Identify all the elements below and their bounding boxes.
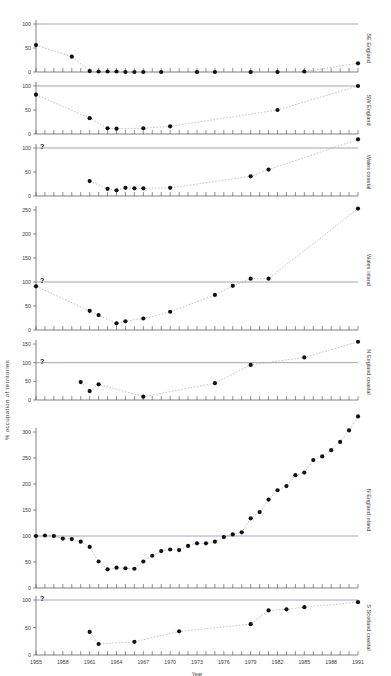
data-point	[302, 355, 306, 359]
data-point	[88, 389, 92, 393]
data-point	[141, 70, 145, 74]
data-point	[266, 608, 270, 612]
y-tick-label: 100	[22, 83, 31, 89]
data-point	[275, 488, 279, 492]
data-point	[159, 549, 163, 553]
y-tick-label: 100	[22, 597, 31, 603]
data-point	[213, 540, 217, 544]
data-point	[97, 69, 101, 73]
uncertainty-marker: ?	[40, 358, 44, 365]
data-point	[88, 545, 92, 549]
series-connector	[36, 45, 358, 72]
data-point	[141, 186, 145, 190]
data-point	[114, 188, 118, 192]
y-tick-label: 50	[25, 559, 31, 565]
data-point	[88, 69, 92, 73]
data-point	[88, 179, 92, 183]
data-point	[97, 642, 101, 646]
data-point	[329, 448, 333, 452]
series-connector	[36, 209, 358, 324]
data-point	[356, 414, 360, 418]
y-tick-label: 300	[22, 429, 31, 435]
series-connector	[90, 602, 358, 644]
panel-se-england: 050100SE England	[22, 20, 372, 75]
data-point	[97, 313, 101, 317]
panel-s-scotland-coastal: 050100?S Scotland coastal	[22, 595, 372, 658]
data-point	[141, 559, 145, 563]
series-connector	[90, 139, 358, 190]
data-point	[356, 137, 360, 141]
data-point	[293, 473, 297, 477]
y-tick-label: 0	[28, 652, 31, 658]
data-point	[356, 340, 360, 344]
data-point	[266, 498, 270, 502]
panel-label: SW England	[366, 94, 372, 125]
figure-multi-panel-occupation: 050100SE England050100SW England050100?W…	[0, 0, 391, 676]
data-point	[231, 532, 235, 536]
data-point	[311, 458, 315, 462]
y-tick-label: 150	[22, 255, 31, 261]
data-point	[347, 428, 351, 432]
x-tick-label: 1988	[325, 659, 337, 665]
data-point	[338, 440, 342, 444]
x-tick-label: 1973	[191, 659, 203, 665]
data-point	[123, 319, 127, 323]
data-point	[168, 186, 172, 190]
data-point	[186, 544, 190, 548]
data-point	[132, 567, 136, 571]
x-axis-title: Year	[192, 671, 203, 676]
chart-svg: 050100SE England050100SW England050100?W…	[0, 0, 391, 676]
data-point	[284, 484, 288, 488]
y-tick-label: 100	[22, 360, 31, 366]
x-tick-label: 1958	[57, 659, 69, 665]
data-point	[88, 309, 92, 313]
x-tick-label: 1964	[111, 659, 123, 665]
data-point	[70, 537, 74, 541]
data-point	[213, 381, 217, 385]
data-point	[249, 622, 253, 626]
data-point	[123, 186, 127, 190]
series-connector	[36, 86, 358, 129]
y-tick-label: 0	[28, 327, 31, 333]
data-point	[302, 605, 306, 609]
panel-label: Wales coastal	[366, 155, 372, 190]
data-point	[70, 55, 74, 59]
data-point	[168, 547, 172, 551]
y-tick-label: 0	[28, 69, 31, 75]
x-tick-label: 1991	[352, 659, 364, 665]
data-point	[258, 510, 262, 514]
panel-label: S Scotland coastal	[366, 604, 372, 650]
y-tick-label: 50	[25, 169, 31, 175]
data-point	[141, 316, 145, 320]
data-point	[302, 470, 306, 474]
data-point	[249, 363, 253, 367]
data-point	[266, 168, 270, 172]
data-point	[356, 61, 360, 65]
data-point	[249, 516, 253, 520]
x-axis-labels: 1955195819611964196719701973197619791982…	[30, 659, 364, 676]
panel-label: SE England	[366, 33, 372, 63]
data-point	[105, 69, 109, 73]
data-point	[302, 69, 306, 73]
data-point	[284, 607, 288, 611]
data-point	[97, 559, 101, 563]
y-tick-label: 50	[25, 45, 31, 51]
data-point	[105, 187, 109, 191]
y-tick-label: 250	[22, 455, 31, 461]
x-tick-label: 1955	[30, 659, 42, 665]
panel-wales-coastal: 050100?Wales coastal	[22, 137, 372, 199]
y-tick-label: 50	[25, 378, 31, 384]
y-tick-label: 0	[28, 131, 31, 137]
data-point	[275, 70, 279, 74]
data-point	[79, 540, 83, 544]
data-point	[150, 554, 154, 558]
data-point	[34, 534, 38, 538]
data-point	[249, 70, 253, 74]
data-point	[231, 284, 235, 288]
data-point	[114, 69, 118, 73]
data-point	[123, 70, 127, 74]
data-point	[105, 126, 109, 130]
x-tick-label: 1976	[218, 659, 230, 665]
data-point	[52, 534, 56, 538]
data-point	[213, 70, 217, 74]
